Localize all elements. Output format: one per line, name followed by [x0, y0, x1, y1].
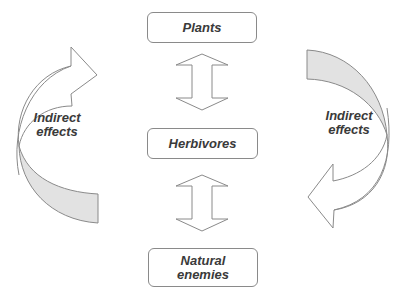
right-label-line2: effects [322, 123, 376, 137]
natural-enemies-label-line1: Natural [181, 254, 226, 268]
natural-enemies-node: Natural enemies [148, 248, 258, 287]
right-curved-arrow-head [308, 135, 388, 228]
left-label-line2: effects [30, 125, 84, 139]
left-indirect-effects-label: Indirect effects [30, 111, 84, 139]
plants-label: Plants [182, 21, 221, 35]
herbivores-enemies-double-arrow [176, 175, 228, 231]
left-curved-arrow-tail [19, 146, 98, 223]
herbivores-label: Herbivores [169, 137, 237, 151]
left-label-line1: Indirect [30, 111, 84, 125]
right-label-line1: Indirect [322, 109, 376, 123]
diagram-canvas: Plants Herbivores Natural enemies Indire… [0, 0, 399, 299]
plants-node: Plants [147, 12, 257, 43]
natural-enemies-label-line2: enemies [177, 268, 229, 282]
right-indirect-effects-label: Indirect effects [322, 109, 376, 137]
herbivores-node: Herbivores [147, 128, 258, 159]
plants-herbivores-double-arrow [176, 54, 228, 110]
